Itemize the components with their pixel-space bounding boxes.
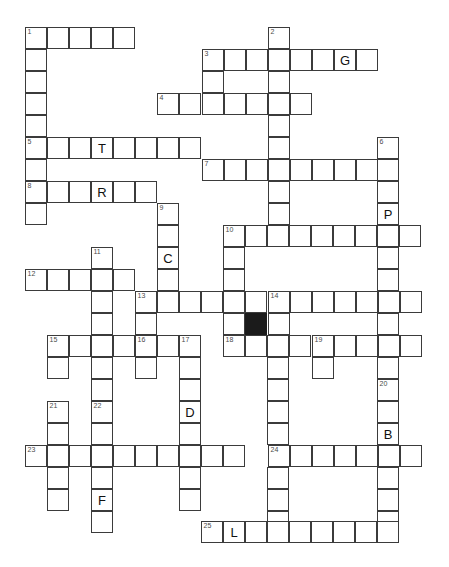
crossword-cell[interactable] bbox=[47, 489, 69, 511]
crossword-cell[interactable] bbox=[157, 291, 179, 313]
crossword-cell[interactable] bbox=[91, 269, 113, 291]
crossword-cell[interactable] bbox=[267, 467, 289, 489]
crossword-cell[interactable] bbox=[356, 291, 378, 313]
crossword-cell[interactable] bbox=[202, 71, 224, 93]
crossword-cell[interactable] bbox=[25, 159, 47, 181]
crossword-cell[interactable] bbox=[290, 445, 312, 467]
crossword-cell[interactable]: 11 bbox=[91, 247, 113, 269]
crossword-cell[interactable] bbox=[268, 313, 290, 335]
crossword-cell[interactable] bbox=[290, 93, 312, 115]
crossword-cell[interactable]: 3 bbox=[202, 49, 224, 71]
crossword-cell[interactable] bbox=[377, 467, 399, 489]
crossword-cell[interactable] bbox=[135, 313, 157, 335]
crossword-cell[interactable] bbox=[69, 335, 91, 357]
crossword-cell[interactable] bbox=[113, 269, 135, 291]
crossword-cell[interactable] bbox=[91, 27, 113, 49]
crossword-cell[interactable] bbox=[113, 445, 135, 467]
crossword-cell[interactable] bbox=[113, 27, 135, 49]
crossword-cell[interactable] bbox=[268, 203, 290, 225]
crossword-cell[interactable] bbox=[377, 225, 399, 247]
crossword-cell[interactable] bbox=[69, 27, 91, 49]
crossword-cell[interactable] bbox=[245, 335, 267, 357]
crossword-cell[interactable] bbox=[356, 159, 378, 181]
crossword-cell[interactable] bbox=[268, 93, 290, 115]
crossword-cell[interactable] bbox=[378, 335, 400, 357]
crossword-cell[interactable] bbox=[400, 445, 422, 467]
crossword-cell[interactable] bbox=[268, 49, 290, 71]
crossword-cell[interactable] bbox=[224, 93, 246, 115]
crossword-cell[interactable] bbox=[267, 225, 289, 247]
crossword-cell[interactable] bbox=[113, 335, 135, 357]
crossword-cell[interactable] bbox=[268, 115, 290, 137]
crossword-cell[interactable]: G bbox=[334, 49, 356, 71]
crossword-cell[interactable] bbox=[399, 225, 421, 247]
crossword-cell[interactable] bbox=[290, 159, 312, 181]
crossword-cell[interactable] bbox=[378, 291, 400, 313]
crossword-cell[interactable] bbox=[245, 521, 267, 543]
crossword-cell[interactable] bbox=[267, 357, 289, 379]
crossword-cell[interactable]: 6 bbox=[377, 137, 399, 159]
crossword-cell[interactable] bbox=[69, 137, 91, 159]
crossword-cell[interactable] bbox=[312, 159, 334, 181]
crossword-cell[interactable] bbox=[268, 71, 290, 93]
crossword-cell[interactable] bbox=[268, 137, 290, 159]
crossword-cell[interactable]: 4 bbox=[157, 93, 179, 115]
crossword-cell[interactable] bbox=[113, 137, 135, 159]
crossword-cell[interactable] bbox=[377, 521, 399, 543]
crossword-cell[interactable] bbox=[267, 423, 289, 445]
crossword-cell[interactable] bbox=[289, 335, 311, 357]
crossword-cell[interactable] bbox=[179, 93, 201, 115]
crossword-cell[interactable] bbox=[69, 445, 91, 467]
crossword-cell[interactable] bbox=[245, 291, 267, 313]
crossword-cell[interactable]: T bbox=[91, 137, 113, 159]
crossword-cell[interactable]: 10 bbox=[223, 225, 245, 247]
crossword-cell[interactable] bbox=[91, 511, 113, 533]
crossword-cell[interactable] bbox=[157, 137, 179, 159]
crossword-cell[interactable]: D bbox=[179, 401, 201, 423]
crossword-cell[interactable]: 16 bbox=[135, 335, 157, 357]
crossword-cell[interactable] bbox=[47, 467, 69, 489]
crossword-cell[interactable] bbox=[179, 357, 201, 379]
crossword-cell[interactable]: 5 bbox=[25, 137, 47, 159]
crossword-cell[interactable]: 13 bbox=[135, 291, 157, 313]
crossword-cell[interactable] bbox=[334, 159, 356, 181]
crossword-cell[interactable] bbox=[377, 269, 399, 291]
crossword-cell[interactable] bbox=[47, 357, 69, 379]
crossword-cell[interactable] bbox=[333, 521, 355, 543]
crossword-cell[interactable] bbox=[201, 291, 223, 313]
crossword-cell[interactable] bbox=[47, 445, 69, 467]
crossword-cell[interactable] bbox=[267, 401, 289, 423]
crossword-cell[interactable] bbox=[47, 137, 69, 159]
crossword-cell[interactable] bbox=[47, 269, 69, 291]
crossword-cell[interactable] bbox=[267, 335, 289, 357]
crossword-cell[interactable] bbox=[179, 379, 201, 401]
crossword-cell[interactable] bbox=[312, 49, 334, 71]
crossword-cell[interactable] bbox=[135, 445, 157, 467]
crossword-cell[interactable]: 12 bbox=[25, 269, 47, 291]
crossword-cell[interactable] bbox=[290, 49, 312, 71]
crossword-cell[interactable]: 19 bbox=[312, 335, 334, 357]
crossword-cell[interactable] bbox=[312, 445, 334, 467]
crossword-cell[interactable]: 9 bbox=[157, 203, 179, 225]
crossword-cell[interactable] bbox=[223, 291, 245, 313]
crossword-cell[interactable] bbox=[267, 521, 289, 543]
crossword-cell[interactable] bbox=[223, 269, 245, 291]
crossword-cell[interactable]: F bbox=[91, 489, 113, 511]
crossword-cell[interactable] bbox=[135, 357, 157, 379]
crossword-cell[interactable]: 14 bbox=[268, 291, 290, 313]
crossword-cell[interactable] bbox=[400, 291, 422, 313]
crossword-cell[interactable] bbox=[25, 71, 47, 93]
crossword-cell[interactable] bbox=[355, 225, 377, 247]
crossword-cell[interactable] bbox=[179, 445, 201, 467]
crossword-cell[interactable] bbox=[246, 93, 268, 115]
crossword-cell[interactable] bbox=[377, 313, 399, 335]
crossword-cell[interactable] bbox=[290, 291, 312, 313]
crossword-cell[interactable] bbox=[47, 423, 69, 445]
crossword-cell[interactable] bbox=[223, 313, 245, 335]
crossword-cell[interactable]: 1 bbox=[25, 27, 47, 49]
crossword-cell[interactable] bbox=[25, 49, 47, 71]
crossword-cell[interactable] bbox=[377, 357, 399, 379]
crossword-cell[interactable]: 20 bbox=[377, 379, 399, 401]
crossword-cell[interactable] bbox=[69, 181, 91, 203]
crossword-cell[interactable] bbox=[179, 423, 201, 445]
